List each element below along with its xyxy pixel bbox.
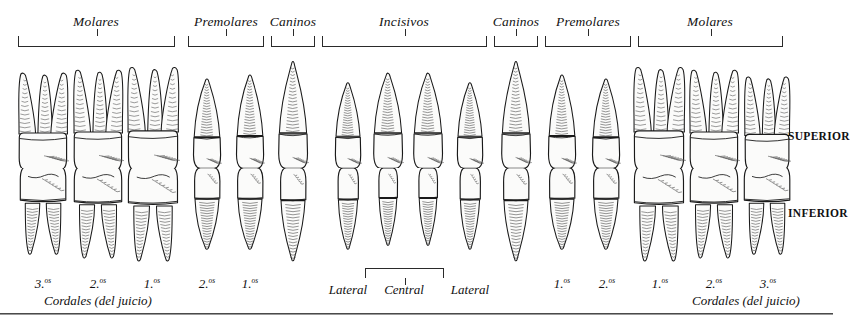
molar-2-lower-left — [72, 168, 124, 260]
incisor-central-upper-right — [411, 70, 445, 168]
tooth-number-text: 1. — [242, 276, 252, 291]
incisor-position-label: Lateral — [329, 282, 367, 298]
tooth-number-text: 2. — [199, 276, 209, 291]
tooth-number-label: 3.os — [35, 276, 51, 292]
premolar-2-lower-right — [591, 168, 621, 252]
tooth-number-text: 1. — [144, 276, 154, 291]
premolar-1-lower-right — [547, 168, 577, 252]
canine-upper-right — [499, 58, 533, 168]
canine-upper-left — [276, 58, 310, 168]
tooth-number-ordinal: os — [100, 276, 107, 285]
molar-2-upper-right — [688, 65, 740, 168]
tooth-number-label: 2.os — [90, 276, 106, 292]
premolar-1-lower-left — [235, 168, 265, 252]
tooth-number-ordinal: os — [252, 276, 259, 285]
tooth-number-ordinal: os — [154, 276, 161, 285]
molar-3-lower-right — [742, 168, 792, 256]
tooth-number-ordinal: os — [770, 276, 777, 285]
premolar-2-lower-left — [192, 168, 222, 252]
tooth-number-text: 2. — [599, 276, 609, 291]
tooth-number-text: 1. — [554, 276, 564, 291]
tooth-number-label: 1.os — [144, 276, 160, 292]
cordales-label: Cordales (del juicio) — [44, 293, 152, 309]
molar-3-upper-left — [17, 68, 69, 168]
tooth-number-label: 2.os — [706, 276, 722, 292]
tooth-number-text: 1. — [652, 276, 662, 291]
canine-lower-right — [501, 168, 531, 264]
molar-1-upper-left — [126, 62, 180, 168]
incisor-lateral-upper-right — [455, 80, 485, 168]
incisor-position-label: Lateral — [451, 282, 489, 298]
tooth-number-label: 1.os — [652, 276, 668, 292]
tooth-number-ordinal: os — [209, 276, 216, 285]
canine-lower-left — [278, 168, 308, 264]
incisor-lateral-lower-left — [336, 168, 360, 252]
incisor-lateral-upper-left — [333, 80, 363, 168]
tooth-number-label: 2.os — [599, 276, 615, 292]
tooth-number-text: 3. — [35, 276, 45, 291]
central-incisors-bracket — [365, 268, 444, 278]
premolar-1-upper-right — [546, 72, 578, 168]
tooth-number-ordinal: os — [609, 276, 616, 285]
footer-divider — [0, 313, 833, 315]
tooth-number-ordinal: os — [662, 276, 669, 285]
incisor-central-upper-left — [371, 70, 405, 168]
tooth-number-ordinal: os — [564, 276, 571, 285]
premolar-2-upper-right — [590, 76, 622, 168]
molar-1-lower-right — [632, 168, 686, 263]
incisor-lateral-lower-right — [458, 168, 482, 252]
molar-2-upper-left — [72, 65, 124, 168]
molar-1-lower-left — [126, 168, 180, 263]
tooth-number-text: 2. — [706, 276, 716, 291]
incisor-central-lower-left — [377, 168, 399, 248]
molar-1-upper-right — [632, 62, 686, 168]
tooth-number-label: 2.os — [199, 276, 215, 292]
tooth-number-ordinal: os — [45, 276, 52, 285]
incisor-central-lower-right — [417, 168, 439, 248]
tooth-number-label: 3.os — [760, 276, 776, 292]
side-label-inferior: INFERIOR — [788, 207, 848, 219]
tooth-number-label: 1.os — [554, 276, 570, 292]
side-label-superior: SUPERIOR — [788, 130, 850, 142]
premolar-2-upper-left — [191, 76, 223, 168]
tooth-number-text: 2. — [90, 276, 100, 291]
tooth-number-ordinal: os — [716, 276, 723, 285]
tooth-number-label: 1.os — [242, 276, 258, 292]
molar-3-lower-left — [18, 168, 68, 256]
molar-2-lower-right — [688, 168, 740, 260]
upper-arch-row — [0, 0, 833, 168]
premolar-1-upper-left — [234, 72, 266, 168]
molar-3-upper-right — [743, 72, 791, 168]
tooth-number-text: 3. — [760, 276, 770, 291]
cordales-label: Cordales (del juicio) — [692, 293, 800, 309]
